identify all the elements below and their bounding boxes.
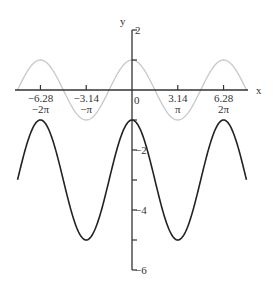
y-tick-label: −2 xyxy=(135,144,147,156)
x-tick-sublabel: −π xyxy=(80,103,92,115)
axes: x y 0 xyxy=(15,15,262,270)
x-tick-sublabel: 2π xyxy=(218,103,230,115)
x-tick-sublabel: −2π xyxy=(32,103,50,115)
x-tick-sublabel: π xyxy=(175,103,181,115)
y-tick-label: 2 xyxy=(135,24,141,36)
y-ticks: 2−2−4−6 xyxy=(132,24,147,276)
x-axis-label: x xyxy=(256,84,262,96)
y-tick-label: −4 xyxy=(135,204,147,216)
y-axis-label: y xyxy=(120,15,126,27)
origin-label: 0 xyxy=(134,94,140,106)
chart: x y 0 −6.28−2π−3.14−π3.14π6.282π 2−2−4−6 xyxy=(0,0,274,292)
y-tick-label: −6 xyxy=(135,264,147,276)
